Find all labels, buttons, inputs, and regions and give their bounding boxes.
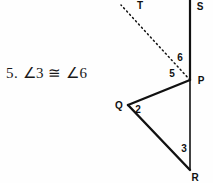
angle-label-5: 5 bbox=[169, 68, 175, 79]
angle-label-6: 6 bbox=[177, 52, 183, 63]
point-label-T: T bbox=[137, 0, 143, 11]
point-label-Q: Q bbox=[115, 100, 123, 111]
angle-label-2: 2 bbox=[135, 104, 141, 115]
geometry-diagram: S T P Q R 6 5 2 3 bbox=[0, 0, 213, 183]
angle-label-3: 3 bbox=[181, 143, 187, 154]
diagram-page: 5. ∠3 ≅ ∠6 S T P Q R 6 5 2 3 bbox=[0, 0, 213, 183]
point-label-S: S bbox=[197, 1, 204, 12]
point-label-R: R bbox=[191, 172, 199, 183]
segment-PQ bbox=[128, 80, 190, 105]
ray-PT-dotted bbox=[121, 5, 190, 80]
point-label-P: P bbox=[198, 75, 205, 86]
